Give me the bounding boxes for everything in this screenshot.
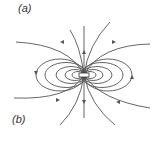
- dipole-field-diagram: (a) (b): [0, 0, 164, 141]
- field-lines: [0, 0, 164, 141]
